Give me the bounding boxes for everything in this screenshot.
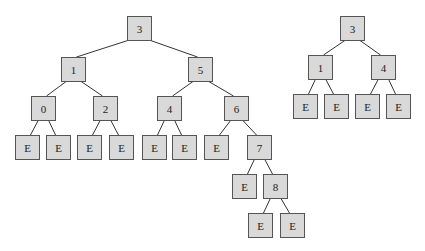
- tree-node-1: 1: [308, 55, 333, 80]
- tree-node-4: 4: [157, 96, 182, 121]
- tree-node-3: 3: [127, 16, 152, 41]
- tree-node-2: 2: [93, 96, 118, 121]
- empty-leaf-node: E: [386, 94, 411, 119]
- tree-node-5: 5: [188, 57, 213, 82]
- empty-leaf-node: E: [77, 135, 102, 160]
- empty-leaf-node: E: [142, 135, 167, 160]
- tree-node-8: 8: [263, 174, 288, 199]
- empty-leaf-node: E: [293, 94, 318, 119]
- empty-leaf-node: E: [15, 135, 40, 160]
- empty-leaf-node: E: [324, 94, 349, 119]
- empty-leaf-node: E: [46, 135, 71, 160]
- tree-node-4: 4: [371, 55, 396, 80]
- empty-leaf-node: E: [280, 213, 305, 238]
- empty-leaf-node: E: [248, 213, 273, 238]
- tree-node-6: 6: [224, 96, 249, 121]
- tree-node-7: 7: [247, 135, 272, 160]
- tree-node-1: 1: [61, 57, 86, 82]
- empty-leaf-node: E: [204, 135, 229, 160]
- empty-leaf-node: E: [355, 94, 380, 119]
- empty-leaf-node: E: [109, 135, 134, 160]
- tree-node-3: 3: [340, 16, 365, 41]
- empty-leaf-node: E: [232, 174, 257, 199]
- empty-leaf-node: E: [172, 135, 197, 160]
- tree-node-0: 0: [31, 96, 56, 121]
